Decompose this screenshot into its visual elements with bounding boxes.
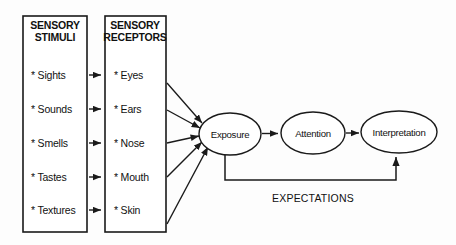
sensory-receptors-header-line1: SENSORY xyxy=(110,19,160,31)
sensory-receptors-item-mouth: * Mouth xyxy=(114,171,149,183)
sensory-stimuli-item-tastes: * Tastes xyxy=(31,171,67,183)
sensory-stimuli-item-sounds: * Sounds xyxy=(31,103,72,115)
arrow-nose-to-exposure xyxy=(167,136,199,143)
sensory-stimuli-item-smells: * Smells xyxy=(31,137,68,149)
diagram-canvas: SENSORY STIMULI * Sights * Sounds * Smel… xyxy=(0,0,456,245)
sensory-stimuli-header-line2: STIMULI xyxy=(35,31,76,43)
exposure-node-label: Exposure xyxy=(211,129,250,140)
sensory-stimuli-box xyxy=(23,16,87,232)
sensory-receptors-item-skin: * Skin xyxy=(114,204,141,216)
arrow-mouth-to-exposure xyxy=(167,142,202,177)
sensory-receptors-item-nose: * Nose xyxy=(114,137,145,149)
arrow-ears-to-exposure xyxy=(167,110,200,128)
perception-process-diagram: SENSORY STIMULI * Sights * Sounds * Smel… xyxy=(0,0,456,245)
interpretation-node-label: Interpretation xyxy=(372,127,425,138)
arrow-skin-to-exposure xyxy=(167,147,208,224)
expectations-feedback-path xyxy=(225,155,396,180)
sensory-receptors-item-eyes: * Eyes xyxy=(114,69,143,81)
arrow-eyes-to-exposure xyxy=(167,83,202,123)
sensory-stimuli-item-textures: * Textures xyxy=(31,204,76,216)
sensory-receptors-header-line2: RECEPTORS xyxy=(103,31,167,43)
expectations-label: EXPECTATIONS xyxy=(272,192,354,204)
sensory-receptors-item-ears: * Ears xyxy=(114,103,141,115)
sensory-stimuli-item-sights: * Sights xyxy=(31,69,66,81)
attention-node-label: Attention xyxy=(295,128,331,139)
sensory-receptors-box xyxy=(105,16,166,232)
sensory-stimuli-header-line1: SENSORY xyxy=(30,19,80,31)
